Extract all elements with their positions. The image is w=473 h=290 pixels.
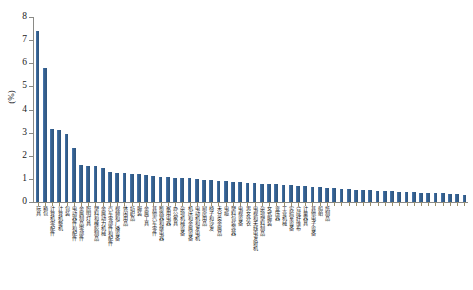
bar-slot[interactable]: [282, 17, 286, 202]
bar-slot[interactable]: [202, 17, 206, 202]
bar[interactable]: [325, 188, 329, 202]
bar-slot[interactable]: [368, 17, 372, 202]
bar[interactable]: [376, 191, 380, 202]
bar[interactable]: [202, 180, 206, 202]
bar-slot[interactable]: [419, 17, 423, 202]
bar-slot[interactable]: [448, 17, 452, 202]
bar[interactable]: [108, 172, 112, 202]
bar-slot[interactable]: [86, 17, 90, 202]
bar-slot[interactable]: [144, 17, 148, 202]
bar[interactable]: [166, 177, 170, 202]
bar[interactable]: [246, 183, 250, 202]
bar[interactable]: [332, 188, 336, 202]
bar[interactable]: [36, 31, 40, 202]
bar[interactable]: [397, 192, 401, 202]
bar-slot[interactable]: [180, 17, 184, 202]
bar[interactable]: [231, 182, 235, 202]
bar-slot[interactable]: [426, 17, 430, 202]
bar-slot[interactable]: [405, 17, 409, 202]
bar[interactable]: [94, 166, 98, 202]
bar-slot[interactable]: [108, 17, 112, 202]
bar-slot[interactable]: [123, 17, 127, 202]
bar[interactable]: [311, 187, 315, 202]
bar-slot[interactable]: [361, 17, 365, 202]
bar[interactable]: [253, 183, 257, 202]
bar-slot[interactable]: [115, 17, 119, 202]
bar-slot[interactable]: [43, 17, 47, 202]
bar[interactable]: [72, 148, 76, 202]
bar-slot[interactable]: [397, 17, 401, 202]
bar[interactable]: [368, 190, 372, 202]
bar[interactable]: [144, 175, 148, 202]
bar-slot[interactable]: [166, 17, 170, 202]
bar-slot[interactable]: [463, 17, 467, 202]
bar[interactable]: [151, 176, 155, 202]
bar[interactable]: [419, 193, 423, 202]
bar[interactable]: [173, 178, 177, 203]
bar[interactable]: [188, 178, 192, 202]
bar[interactable]: [43, 68, 47, 202]
bar[interactable]: [390, 191, 394, 202]
bar[interactable]: [318, 187, 322, 202]
bar[interactable]: [224, 181, 228, 202]
bar-slot[interactable]: [209, 17, 213, 202]
bar[interactable]: [267, 184, 271, 202]
bar-slot[interactable]: [434, 17, 438, 202]
bar[interactable]: [412, 192, 416, 202]
bar-slot[interactable]: [224, 17, 228, 202]
bar-slot[interactable]: [246, 17, 250, 202]
bar[interactable]: [86, 166, 90, 202]
bar-slot[interactable]: [311, 17, 315, 202]
bar[interactable]: [426, 193, 430, 202]
bar-slot[interactable]: [376, 17, 380, 202]
bar-slot[interactable]: [57, 17, 61, 202]
bar-slot[interactable]: [296, 17, 300, 202]
bar-slot[interactable]: [159, 17, 163, 202]
bar[interactable]: [463, 195, 467, 202]
bar[interactable]: [455, 194, 459, 202]
bar[interactable]: [340, 189, 344, 202]
bar[interactable]: [79, 165, 83, 202]
bar-slot[interactable]: [217, 17, 221, 202]
bar-slot[interactable]: [188, 17, 192, 202]
bar-slot[interactable]: [332, 17, 336, 202]
bar-slot[interactable]: [274, 17, 278, 202]
bar[interactable]: [195, 179, 199, 202]
bar[interactable]: [405, 192, 409, 202]
bar[interactable]: [217, 181, 221, 202]
bar-slot[interactable]: [101, 17, 105, 202]
bar[interactable]: [441, 193, 445, 202]
bar[interactable]: [65, 134, 69, 202]
bar[interactable]: [209, 180, 213, 202]
bar[interactable]: [260, 184, 264, 203]
bar-slot[interactable]: [79, 17, 83, 202]
bar[interactable]: [238, 182, 242, 202]
bar[interactable]: [180, 178, 184, 202]
bar-slot[interactable]: [238, 17, 242, 202]
bar[interactable]: [383, 191, 387, 202]
bar-slot[interactable]: [253, 17, 257, 202]
bar[interactable]: [101, 168, 105, 202]
bar[interactable]: [296, 186, 300, 202]
bar-slot[interactable]: [36, 17, 40, 202]
bar-slot[interactable]: [195, 17, 199, 202]
bar[interactable]: [50, 129, 54, 202]
bar[interactable]: [303, 186, 307, 202]
bar-slot[interactable]: [65, 17, 69, 202]
bar[interactable]: [282, 185, 286, 202]
bar-slot[interactable]: [72, 17, 76, 202]
bar[interactable]: [361, 190, 365, 202]
bar[interactable]: [448, 194, 452, 202]
bar[interactable]: [130, 174, 134, 202]
bar[interactable]: [115, 173, 119, 202]
bar[interactable]: [434, 193, 438, 202]
bar[interactable]: [123, 173, 127, 202]
bar-slot[interactable]: [441, 17, 445, 202]
bar[interactable]: [159, 177, 163, 202]
bar-slot[interactable]: [289, 17, 293, 202]
bar-slot[interactable]: [340, 17, 344, 202]
bar-slot[interactable]: [455, 17, 459, 202]
bar-slot[interactable]: [137, 17, 141, 202]
bar-slot[interactable]: [303, 17, 307, 202]
bar-slot[interactable]: [231, 17, 235, 202]
